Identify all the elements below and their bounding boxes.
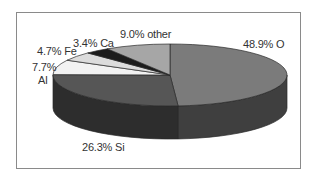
label-al-name: Al [38,74,47,86]
pie-chart-3d [0,0,317,172]
label-o: 48.9% O [243,38,284,50]
label-al-percent: 7.7% [32,61,56,73]
label-other: 9.0% other [120,28,171,40]
label-ca: 3.4% Ca [73,37,114,49]
label-fe: 4.7% Fe [37,45,77,57]
label-si: 26.3% Si [82,141,124,153]
